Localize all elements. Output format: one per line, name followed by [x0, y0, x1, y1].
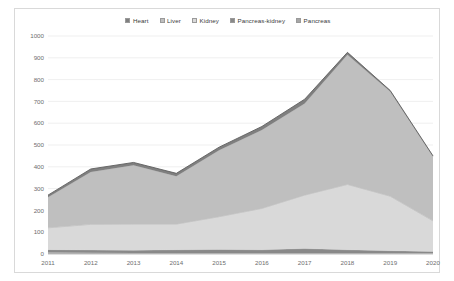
x-axis-tick-label: 2019	[383, 259, 397, 266]
y-axis-tick-label: 400	[34, 163, 45, 170]
x-axis-tick-label: 2011	[41, 259, 55, 266]
chart-container: Heart Liver Kidney Pancreas-kidney Pancr…	[14, 8, 440, 273]
x-axis-tick-label: 2018	[341, 259, 355, 266]
y-axis-tick-label: 700	[34, 98, 45, 105]
y-axis-tick-label: 0	[41, 250, 45, 257]
y-axis-tick-label: 100	[34, 228, 45, 235]
y-axis-tick-label: 200	[34, 207, 45, 214]
y-axis-tick-label: 900	[34, 54, 45, 61]
x-axis-tick-label: 2016	[255, 259, 269, 266]
y-axis-tick-label: 600	[34, 119, 45, 126]
y-axis-tick-label: 800	[34, 76, 45, 83]
x-axis-tick-label: 2020	[426, 259, 440, 266]
x-axis-tick-label: 2013	[127, 259, 141, 266]
y-axis-tick-label: 300	[34, 185, 45, 192]
stacked-area-chart: 0100200300400500600700800900100020112012…	[15, 9, 441, 274]
x-axis-tick-label: 2014	[169, 259, 183, 266]
x-axis-tick-label: 2015	[212, 259, 226, 266]
plot-area: 0100200300400500600700800900100020112012…	[15, 9, 441, 274]
y-axis-tick-label: 500	[34, 141, 45, 148]
x-axis-tick-label: 2012	[84, 259, 98, 266]
y-axis-tick-label: 1000	[30, 32, 44, 39]
x-axis-tick-label: 2017	[298, 259, 312, 266]
